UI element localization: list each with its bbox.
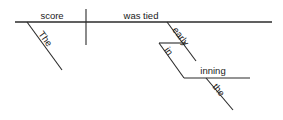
word-predicate: was tied: [123, 10, 159, 21]
word-adverb: early: [170, 25, 191, 48]
sentence-diagram: score was tied The early in inning the: [0, 0, 283, 120]
word-object-of-preposition: inning: [200, 65, 225, 76]
word-subject: score: [40, 10, 63, 21]
diagram-canvas: score was tied The early in inning the: [0, 0, 283, 120]
word-object-article: the: [210, 81, 227, 98]
word-subject-article: The: [36, 29, 55, 49]
word-preposition: in: [162, 45, 175, 57]
